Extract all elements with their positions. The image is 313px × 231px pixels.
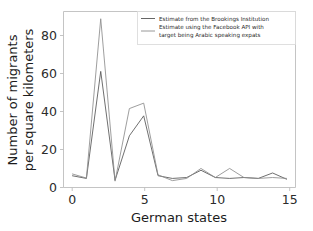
x-tick-label-0: 0: [68, 192, 76, 207]
legend-label-facebook-api-line2: target being Arabic speaking expats: [159, 32, 261, 39]
x-tick-label-10: 10: [209, 192, 225, 207]
y-axis-title: Number of migrants per square kilometers: [5, 28, 36, 171]
y-axis-title-line1: Number of migrants: [5, 34, 20, 165]
y-tick-labels: 0 20 40 60 80: [41, 28, 57, 195]
y-tick-label-60: 60: [41, 66, 57, 81]
legend-label-facebook-api-line1: Estimate using the Facebook API with: [159, 24, 264, 31]
series-line-brookings: [72, 71, 287, 180]
y-axis-title-line2: per square kilometers: [21, 28, 36, 171]
y-tick-marks: [60, 36, 64, 188]
x-tick-labels: 0 5 10 15: [68, 192, 297, 207]
chart-legend: Estimate from the Brookings Institution …: [138, 12, 296, 45]
x-tick-marks: [72, 188, 290, 192]
y-tick-label-20: 20: [41, 142, 57, 157]
x-axis-title: German states: [131, 210, 227, 225]
line-chart: 0 20 40 60 80 0 5 10 15 German states Nu…: [0, 0, 313, 231]
y-tick-label-80: 80: [41, 28, 57, 43]
chart-figure: 0 20 40 60 80 0 5 10 15 German states Nu…: [0, 0, 313, 231]
x-tick-label-5: 5: [141, 192, 149, 207]
y-tick-label-0: 0: [49, 180, 57, 195]
y-tick-label-40: 40: [41, 104, 57, 119]
legend-label-brookings: Estimate from the Brookings Institution: [159, 16, 269, 23]
x-tick-label-15: 15: [282, 192, 298, 207]
